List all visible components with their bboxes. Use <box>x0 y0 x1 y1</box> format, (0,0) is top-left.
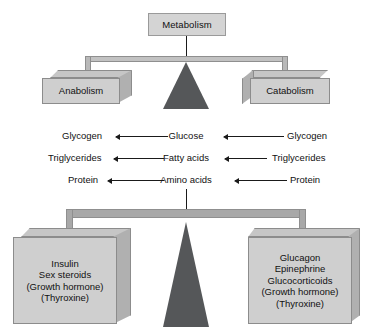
catabolic-hormone-line: Glucocorticoids <box>268 275 333 287</box>
row-center-term: Glucose <box>169 129 204 143</box>
row-left-term: Triglycerides <box>48 151 102 165</box>
anabolic-hormone-line: (Growth hormone) <box>26 281 103 293</box>
anabolism-box: Anabolism <box>42 70 132 104</box>
row-right-term: Triglycerides <box>272 151 326 165</box>
metabolism-connector-line <box>186 36 187 58</box>
row-left-arrow <box>108 180 164 181</box>
metabolite-row: Protein Amino acids Protein <box>0 173 366 187</box>
row-right-term: Protein <box>290 173 320 187</box>
row-right-arrow <box>225 158 267 159</box>
metabolite-row: Triglycerides Fatty acids Triglycerides <box>0 151 366 165</box>
row-left-arrow <box>114 158 164 159</box>
catabolism-label: Catabolism <box>266 85 314 97</box>
row-right-term: Glycogen <box>287 129 327 143</box>
metabolism-box: Metabolism <box>148 13 226 36</box>
catabolic-hormone-line: (Growth hormone) <box>261 286 338 298</box>
anabolic-hormone-line: Insulin <box>51 258 78 270</box>
catabolic-hormones-box: Glucagon Epinephrine Glucocorticoids (Gr… <box>248 228 360 324</box>
catabolism-box: Catabolism <box>242 70 334 104</box>
bottom-fulcrum <box>163 222 209 327</box>
row-left-term: Glycogen <box>62 129 102 143</box>
row-right-arrow <box>224 136 284 137</box>
row-left-term: Protein <box>68 173 98 187</box>
catabolic-hormone-line: Glucagon <box>280 252 321 264</box>
catabolic-hormones-box-front-face: Glucagon Epinephrine Glucocorticoids (Gr… <box>248 237 352 324</box>
catabolic-hormone-line: Epinephrine <box>275 263 326 275</box>
row-left-arrow <box>116 136 168 137</box>
row-center-term: Amino acids <box>160 173 212 187</box>
anabolism-label: Anabolism <box>59 85 103 97</box>
anabolic-hormone-line: (Thyroxine) <box>41 292 89 304</box>
anabolic-hormone-line: Sex steroids <box>39 269 91 281</box>
metabolism-label: Metabolism <box>162 19 212 30</box>
anabolic-hormones-box-top-face <box>21 228 131 237</box>
row-center-term: Fatty acids <box>163 151 209 165</box>
anabolic-hormones-box: Insulin Sex steroids (Growth hormone) (T… <box>13 228 131 324</box>
bottom-beam <box>66 209 306 218</box>
metabolite-row: Glycogen Glucose Glycogen <box>0 129 366 143</box>
catabolic-hormones-box-top-face <box>248 228 360 237</box>
catabolic-hormone-line: (Thyroxine) <box>276 298 324 310</box>
anabolism-box-front-face: Anabolism <box>42 78 120 104</box>
row-right-arrow <box>235 180 287 181</box>
catabolism-box-top-face <box>244 70 328 78</box>
anabolic-hormones-box-front-face: Insulin Sex steroids (Growth hormone) (T… <box>13 237 117 324</box>
top-fulcrum <box>163 62 209 109</box>
diagram-canvas: Metabolism Anabolism Catabolism Glycogen… <box>0 0 366 334</box>
catabolism-box-front-face: Catabolism <box>250 78 330 104</box>
